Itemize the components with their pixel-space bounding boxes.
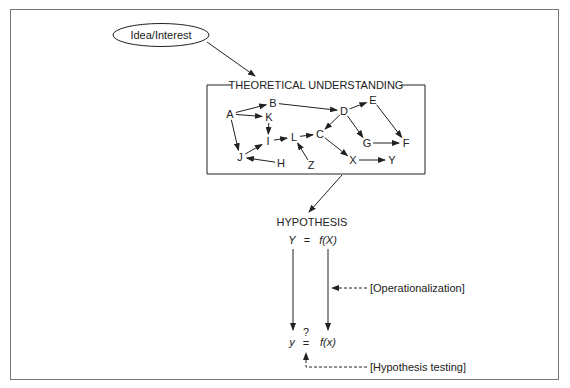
node-k: K — [265, 111, 273, 123]
edge-j-i — [245, 144, 262, 154]
empirical-y: y — [288, 336, 296, 348]
theoretical-equation: Y = f(X) — [288, 234, 337, 246]
node-g: G — [363, 137, 372, 149]
node-e: E — [369, 94, 376, 106]
edge-d-c — [325, 115, 340, 129]
idea-interest-label: Idea/Interest — [130, 29, 191, 41]
operationalization-label: [Operationalization] — [370, 282, 465, 294]
edge-z-l — [298, 143, 308, 160]
node-j: J — [237, 151, 243, 163]
node-h: H — [277, 157, 285, 169]
node-a: A — [226, 108, 234, 120]
edge-b-d — [279, 104, 337, 111]
hypothesis-testing-pointer — [306, 353, 367, 367]
edge-a-b — [236, 105, 266, 113]
edge-d-e — [350, 102, 367, 108]
theoretical-equals: = — [304, 234, 310, 246]
node-l: L — [291, 131, 297, 143]
edge-h-j — [247, 158, 275, 162]
theory-title: THEORETICAL UNDERSTANDING — [229, 79, 404, 91]
empirical-equation: y ? = f(x) — [288, 326, 336, 349]
node-i: I — [266, 135, 269, 147]
empirical-equals: = — [303, 337, 309, 349]
edge-l-c — [300, 135, 313, 137]
idea-to-theory-arrow — [207, 42, 255, 76]
edge-c-x — [325, 138, 348, 156]
edge-a-j — [231, 120, 238, 150]
theoretical-fx: f(X) — [319, 234, 337, 246]
theory-to-hypothesis-arrow — [309, 175, 342, 212]
hypothesis-testing-label: [Hypothesis testing] — [370, 361, 466, 373]
edge-e-f — [377, 105, 402, 138]
node-z: Z — [308, 159, 315, 171]
empirical-fx: f(x) — [320, 336, 336, 348]
node-x: X — [349, 154, 357, 166]
hypothesis-title: HYPOTHESIS — [277, 216, 348, 228]
research-process-diagram: Idea/Interest THEORETICAL UNDERSTANDING … — [0, 0, 570, 388]
node-d: D — [340, 105, 348, 117]
node-y: Y — [388, 154, 396, 166]
node-f: F — [403, 137, 410, 149]
edge-i-l — [274, 138, 287, 140]
node-c: C — [316, 128, 324, 140]
edge-a-k — [236, 114, 262, 116]
idea-interest-node: Idea/Interest — [113, 24, 209, 47]
node-b: B — [269, 97, 276, 109]
theoretical-y: Y — [288, 234, 296, 246]
edge-d-g — [348, 116, 363, 137]
